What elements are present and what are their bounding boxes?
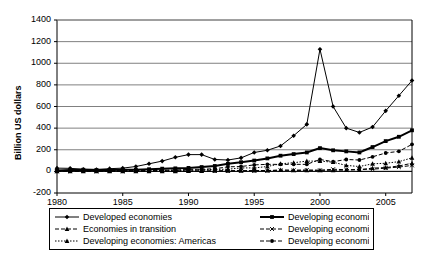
y-tick-label: 1000	[17, 57, 51, 67]
y-tick-label: 600	[17, 101, 51, 111]
legend-item[interactable]: Developing economies: Asia	[259, 235, 369, 247]
y-tick-label: 800	[17, 79, 51, 89]
legend-item[interactable]: Developing economies: Africa	[259, 223, 369, 235]
x-tick-label: 2000	[300, 197, 340, 207]
y-tick-label: 1400	[17, 14, 51, 24]
chart-legend: Developed economiesDeveloping economiesE…	[49, 208, 374, 250]
x-tick-label: 2005	[366, 197, 406, 207]
legend-label: Developing economies: Africa	[288, 225, 369, 234]
legend-item[interactable]: Developing economies	[259, 211, 369, 223]
legend-item[interactable]: Developed economies	[54, 211, 259, 223]
y-tick-label: 200	[17, 144, 51, 154]
legend-label: Developing economies: Americas	[83, 237, 216, 246]
x-tick-label: 1995	[234, 197, 274, 207]
legend-marker-icon	[54, 212, 80, 222]
y-tick-label: 400	[17, 122, 51, 132]
gridlines	[57, 20, 412, 171]
x-tick-label: 1985	[103, 197, 143, 207]
legend-label: Developing economies	[288, 213, 369, 222]
chart-figure: Billion US dollars -20002004006008001000…	[0, 0, 421, 258]
legend-marker-icon	[54, 224, 80, 234]
x-tick-label: 1980	[37, 197, 77, 207]
legend-marker-icon	[259, 212, 285, 222]
legend-label: Developed economies	[83, 213, 172, 222]
y-tick-label: 0	[17, 165, 51, 175]
y-tick-label: -200	[17, 187, 51, 197]
legend-marker-icon	[54, 236, 80, 246]
data-series-group	[55, 47, 415, 173]
legend-label: Economies in transition	[83, 225, 176, 234]
legend-item[interactable]: Economies in transition	[54, 223, 259, 235]
legend-label: Developing economies: Asia	[288, 237, 369, 246]
x-tick-label: 1990	[168, 197, 208, 207]
legend-marker-icon	[259, 224, 285, 234]
legend-marker-icon	[259, 236, 285, 246]
legend-item[interactable]: Developing economies: Americas	[54, 235, 259, 247]
y-tick-label: 1200	[17, 36, 51, 46]
